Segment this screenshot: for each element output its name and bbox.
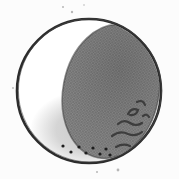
crescent-dot (77, 145, 80, 148)
moon-phase-figure (0, 0, 179, 179)
crescent-dot (98, 152, 101, 155)
paper-speck (83, 4, 85, 6)
moon-phase-svg (0, 0, 179, 179)
crescent-dot (61, 144, 64, 147)
paper-speck (62, 6, 64, 8)
paper-speck (71, 11, 73, 13)
crescent-dot (84, 151, 87, 154)
paper-speck (117, 169, 120, 172)
crescent-dot (104, 147, 107, 150)
crescent-dot (108, 153, 111, 156)
paper-speck (96, 171, 98, 173)
paper-speck (12, 87, 14, 89)
crescent-dot (91, 146, 94, 149)
crescent-dot (69, 150, 72, 153)
